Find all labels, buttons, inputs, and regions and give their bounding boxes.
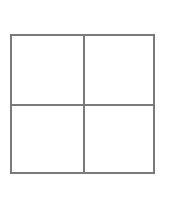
grid-cell-bottom-left [12,106,83,172]
two-by-two-grid [10,34,155,174]
grid-cell-top-left [12,36,83,104]
grid-cell-bottom-right [85,106,153,172]
grid-cell-top-right [85,36,153,104]
